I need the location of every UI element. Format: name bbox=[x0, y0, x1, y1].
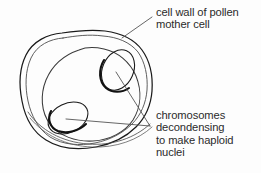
label-chromosomes-line-1: chromosomes bbox=[156, 109, 234, 121]
nucleus-upper-right bbox=[95, 45, 140, 96]
nucleus-upper-right-chromatin-edge bbox=[100, 60, 129, 92]
diagram-canvas: cell wall of pollen mother cell chromoso… bbox=[0, 0, 261, 173]
label-chromosomes-line-4: nuclei bbox=[156, 146, 234, 158]
label-chromosomes: chromosomes decondensing to make haploid… bbox=[156, 109, 234, 159]
leader-line-nucleus-upper bbox=[116, 72, 150, 126]
label-cell-wall: cell wall of pollen mother cell bbox=[156, 6, 239, 31]
leader-line-nucleus-lower bbox=[66, 119, 150, 126]
nucleus-lower-left bbox=[43, 96, 93, 140]
outer-cell-wall-inner-contour bbox=[26, 35, 147, 144]
label-cell-wall-line-1: cell wall of pollen bbox=[156, 6, 239, 18]
label-chromosomes-line-3: to make haploid bbox=[156, 134, 234, 146]
leader-line-cell-wall bbox=[122, 17, 152, 38]
label-chromosomes-line-2: decondensing bbox=[156, 121, 234, 133]
nucleus-lower-left-chromatin-edge bbox=[49, 111, 86, 132]
inner-cell-membrane bbox=[42, 48, 140, 142]
label-cell-wall-line-2: mother cell bbox=[156, 18, 239, 30]
